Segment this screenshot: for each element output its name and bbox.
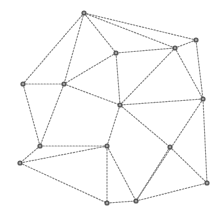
edge-n7-n8 [64, 84, 120, 105]
edge-n3-n4 [175, 40, 196, 48]
edge-n12-n15 [107, 201, 136, 203]
node-n13 [167, 144, 172, 149]
edge-n5-n14 [203, 99, 207, 183]
node-n6 [20, 81, 25, 86]
edge-n2-n8 [116, 53, 120, 105]
node-n4 [193, 37, 198, 42]
edge-n3-n8 [120, 48, 175, 105]
edge-n6-n9 [23, 84, 40, 146]
node-n2 [113, 50, 118, 55]
node-n11 [17, 160, 22, 165]
graph-svg [0, 0, 223, 224]
edge-n8-n10 [107, 105, 120, 146]
node-n3 [172, 45, 177, 50]
edge-n8-n13 [120, 105, 170, 147]
edge-n10-n15 [107, 146, 136, 201]
node-n12 [104, 200, 109, 205]
edge-n1-n4 [84, 13, 196, 40]
nodes-layer [17, 10, 209, 205]
edge-n11-n12 [20, 163, 107, 203]
edge-n1-n6 [23, 13, 84, 84]
node-n15 [133, 198, 138, 203]
node-n14 [204, 180, 209, 185]
edge-n5-n8 [120, 99, 203, 105]
edge-n4-n5 [196, 40, 203, 99]
edges-layer [20, 13, 207, 203]
node-n8 [117, 102, 122, 107]
edge-n3-n5 [175, 48, 203, 99]
node-n7 [61, 81, 66, 86]
node-n10 [104, 143, 109, 148]
node-n1 [81, 10, 86, 15]
edge-n10-n11 [20, 146, 107, 163]
node-n5 [200, 96, 205, 101]
network-diagram [0, 0, 223, 224]
edge-n2-n3 [116, 48, 175, 53]
edge-n13-n14 [170, 147, 207, 183]
node-n9 [37, 143, 42, 148]
edge-n7-n9 [40, 84, 64, 146]
edge-n13-n15 [136, 147, 170, 201]
